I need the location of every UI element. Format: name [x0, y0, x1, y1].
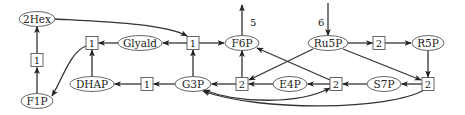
svg-text:DHAP: DHAP [76, 78, 108, 90]
reaction-box-f: 2 [236, 78, 248, 91]
metabolite-f6p: F6P [225, 36, 259, 51]
metabolic-network-diagram: 2Hex F1P Glyald F6P Ru5P R5P DHAP G3P E4… [0, 0, 465, 115]
metabolite-ru5p: Ru5P [308, 36, 348, 51]
svg-text:1: 1 [34, 55, 40, 66]
svg-text:1: 1 [89, 38, 95, 49]
edge-r_g-to-f6p [257, 48, 330, 80]
reaction-box-b: 1 [86, 37, 98, 50]
edge-ru5p-to-r_h [343, 49, 421, 80]
svg-text:2: 2 [239, 79, 245, 90]
svg-text:G3P: G3P [182, 78, 204, 90]
svg-text:1: 1 [190, 38, 196, 49]
edge-2hex-to-r_c [55, 19, 187, 36]
metabolite-s7p: S7P [367, 77, 401, 92]
flux-label-out-f6p: 5 [250, 17, 256, 28]
svg-text:2: 2 [425, 79, 431, 90]
svg-text:Glyald: Glyald [123, 37, 157, 49]
reaction-box-g: 2 [330, 78, 342, 91]
reaction-box-a: 1 [31, 54, 43, 67]
svg-text:2Hex: 2Hex [23, 13, 51, 25]
metabolite-f1p: F1P [21, 94, 53, 109]
svg-text:E4P: E4P [279, 78, 300, 90]
metabolite-dhap: DHAP [70, 77, 114, 92]
svg-text:F1P: F1P [26, 95, 47, 107]
edge-g3p-r_g-curve [204, 88, 330, 100]
svg-text:Ru5P: Ru5P [314, 37, 342, 49]
reaction-box-d: 2 [373, 37, 385, 50]
svg-text:2: 2 [333, 79, 339, 90]
metabolite-r5p: R5P [412, 36, 444, 51]
flux-label-in-ru5p: 6 [318, 17, 324, 28]
metabolite-glyald: Glyald [118, 36, 162, 51]
edge-ru5p-to-r_f [249, 49, 313, 80]
metabolite-g3p: G3P [175, 77, 211, 92]
svg-text:2: 2 [376, 38, 382, 49]
svg-text:S7P: S7P [374, 78, 395, 90]
metabolite-2hex: 2Hex [19, 12, 55, 27]
reaction-box-c: 1 [187, 37, 199, 50]
svg-text:1: 1 [144, 79, 150, 90]
reaction-box-h: 2 [422, 78, 434, 91]
metabolite-e4p: E4P [273, 77, 307, 92]
svg-text:F6P: F6P [231, 37, 252, 49]
reaction-box-e: 1 [141, 78, 153, 91]
svg-text:R5P: R5P [417, 37, 439, 49]
